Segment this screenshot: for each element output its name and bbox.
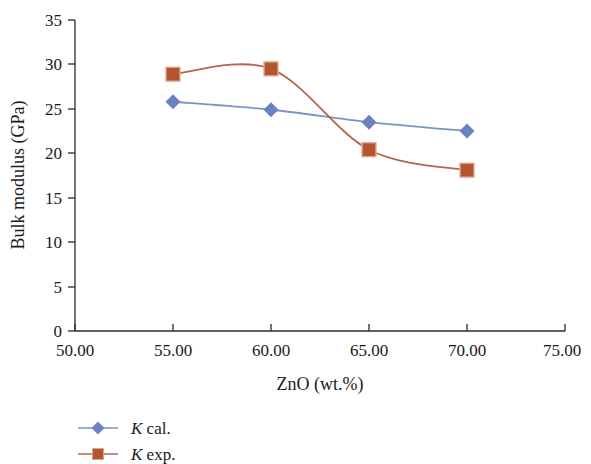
chart-background <box>0 0 591 464</box>
y-tick-label-10: 10 <box>45 233 62 252</box>
chart-figure: 35 30 25 20 15 10 5 0 50.00 55.00 60.00 … <box>0 0 591 464</box>
y-tick-label-15: 15 <box>45 189 62 208</box>
x-tick-label-55: 55.00 <box>154 341 192 360</box>
x-tick-label-50: 50.00 <box>56 341 94 360</box>
data-point-square[interactable] <box>362 143 376 157</box>
data-point-square[interactable] <box>264 62 278 76</box>
y-tick-label-5: 5 <box>54 278 63 297</box>
x-tick-label-65: 65.00 <box>350 341 388 360</box>
data-point-square[interactable] <box>166 67 180 81</box>
data-point-square[interactable] <box>460 163 474 177</box>
x-tick-label-60: 60.00 <box>252 341 290 360</box>
legend-label-k-exp: K exp. <box>130 445 175 464</box>
y-tick-label-0: 0 <box>54 322 63 341</box>
line-chart-svg: 35 30 25 20 15 10 5 0 50.00 55.00 60.00 … <box>0 0 591 464</box>
y-tick-label-20: 20 <box>45 144 62 163</box>
y-tick-label-30: 30 <box>45 55 62 74</box>
y-tick-label-25: 25 <box>45 100 62 119</box>
x-tick-label-70: 70.00 <box>448 341 486 360</box>
x-axis-title: ZnO (wt.%) <box>277 374 364 395</box>
x-tick-label-75: 75.00 <box>543 341 581 360</box>
y-axis-title: Bulk modulus (GPa) <box>8 100 29 249</box>
square-marker-icon <box>93 449 104 460</box>
y-tick-label-35: 35 <box>45 11 62 30</box>
legend-label-k-cal: K cal. <box>130 419 171 438</box>
